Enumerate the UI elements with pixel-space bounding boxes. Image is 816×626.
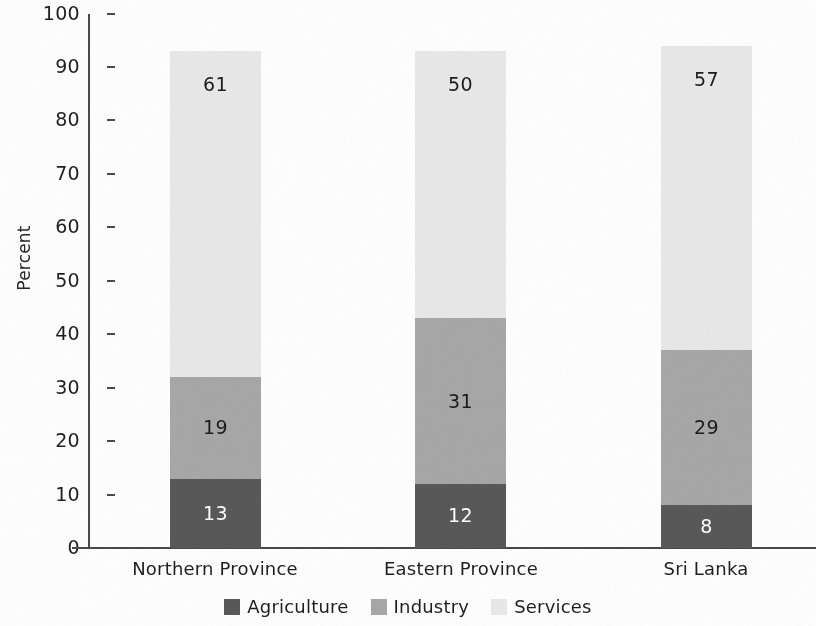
- y-tick-mark-30: [107, 387, 115, 389]
- bar-value-label-agriculture: 13: [203, 504, 228, 523]
- y-tick-mark-70: [107, 173, 115, 175]
- y-tick-mark-80: [107, 119, 115, 121]
- x-label-northern-province: Northern Province: [120, 558, 310, 580]
- bar-segment-agriculture: 8: [661, 505, 752, 548]
- legend-label-services: Services: [514, 597, 592, 617]
- bar-segment-industry: 19: [170, 377, 261, 478]
- y-tick-label-80: 80: [34, 110, 80, 129]
- y-tick-label-40: 40: [34, 324, 80, 343]
- chart-legend: Agriculture Industry Services: [0, 597, 816, 617]
- y-tick-mark-50: [107, 280, 115, 282]
- bar-value-label-industry: 31: [448, 392, 473, 411]
- y-tick-label-30: 30: [34, 378, 80, 397]
- y-tick-label-70: 70: [34, 164, 80, 183]
- bar-segment-agriculture: 12: [415, 484, 506, 548]
- legend-item-industry: Industry: [371, 597, 470, 617]
- bar-value-label-services: 57: [694, 70, 719, 89]
- bar-segment-industry: 29: [661, 350, 752, 505]
- bar-segment-industry: 31: [415, 318, 506, 484]
- legend-label-industry: Industry: [394, 597, 470, 617]
- y-tick-mark-90: [107, 66, 115, 68]
- x-label-sri-lanka: Sri Lanka: [611, 558, 801, 580]
- bar-value-label-services: 50: [448, 75, 473, 94]
- legend-swatch-industry-icon: [371, 599, 387, 615]
- bar-segment-agriculture: 13: [170, 479, 261, 548]
- bar-value-label-industry: 19: [203, 418, 228, 437]
- y-tick-label-20: 20: [34, 431, 80, 450]
- y-tick-mark-100: [107, 13, 115, 15]
- y-tick-mark-60: [107, 226, 115, 228]
- y-tick-mark-40: [107, 333, 115, 335]
- bar-value-label-agriculture: 12: [448, 506, 473, 525]
- bar-northern-province: 611913: [170, 51, 261, 548]
- y-tick-label-10: 10: [34, 485, 80, 504]
- y-axis-ticks: 100 90 80 70 60 50 40 30 20 10 0: [26, 0, 80, 560]
- stacked-bar-chart: Percent 100 90 80 70 60 50 40 30 20 10 0…: [0, 0, 816, 626]
- y-tick-label-60: 60: [34, 217, 80, 236]
- bar-sri-lanka: 57298: [661, 46, 752, 548]
- legend-label-agriculture: Agriculture: [247, 597, 348, 617]
- bar-value-label-services: 61: [203, 75, 228, 94]
- legend-item-services: Services: [491, 597, 592, 617]
- legend-swatch-services-icon: [491, 599, 507, 615]
- bar-value-label-industry: 29: [694, 418, 719, 437]
- y-tick-label-100: 100: [34, 4, 80, 23]
- y-tick-label-50: 50: [34, 271, 80, 290]
- y-tick-mark-10: [107, 494, 115, 496]
- legend-swatch-agriculture-icon: [224, 599, 240, 615]
- legend-item-agriculture: Agriculture: [224, 597, 348, 617]
- bar-value-label-agriculture: 8: [700, 517, 712, 536]
- y-tick-mark-20: [107, 440, 115, 442]
- y-tick-label-90: 90: [34, 57, 80, 76]
- y-axis-line: [88, 14, 90, 549]
- x-label-eastern-province: Eastern Province: [366, 558, 556, 580]
- bar-segment-services: 57: [661, 46, 752, 350]
- bar-eastern-province: 503112: [415, 51, 506, 548]
- bar-segment-services: 50: [415, 51, 506, 318]
- bar-segment-services: 61: [170, 51, 261, 377]
